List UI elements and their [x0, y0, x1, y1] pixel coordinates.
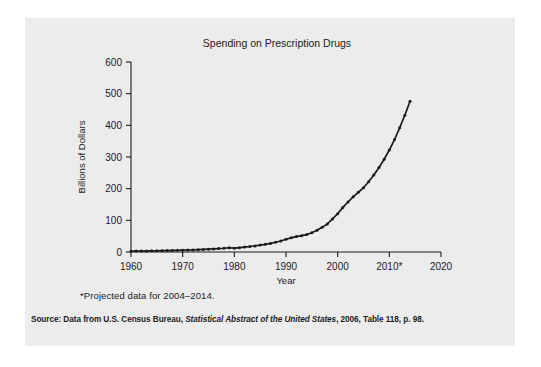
data-point-marker — [223, 247, 226, 250]
chart-content-panel: Spending on Prescription Drugs 010020030… — [25, 18, 515, 346]
y-tick-label: 300 — [105, 152, 122, 163]
data-point-marker — [212, 247, 215, 250]
data-point-marker — [409, 100, 412, 103]
data-point-marker — [305, 233, 308, 236]
data-point-marker — [341, 206, 344, 209]
data-point-marker — [362, 186, 365, 189]
x-tick-label: 2020 — [430, 261, 453, 272]
data-point-marker — [166, 249, 169, 252]
chart-title: Spending on Prescription Drugs — [203, 37, 351, 49]
data-point-marker — [269, 242, 272, 245]
y-tick-label: 100 — [105, 215, 122, 226]
x-axis-title: Year — [276, 275, 295, 286]
x-axis-ticks: 196019701980199020002010*2020 — [120, 252, 453, 272]
y-tick-label: 200 — [105, 183, 122, 194]
data-point-marker — [331, 217, 334, 220]
data-point-marker — [150, 249, 153, 252]
prescription-drug-spending-chart: Spending on Prescription Drugs 010020030… — [25, 18, 515, 288]
figure-root: Spending on Prescription Drugs 010020030… — [0, 0, 541, 367]
data-point-marker — [171, 249, 174, 252]
data-point-marker — [398, 126, 401, 129]
x-axis: 196019701980199020002010*2020 Year — [120, 252, 453, 286]
data-point-marker — [295, 235, 298, 238]
data-point-marker — [145, 249, 148, 252]
source-note: Source: Data from U.S. Census Bureau, St… — [31, 315, 424, 324]
data-point-marker — [259, 244, 262, 247]
data-point-marker — [357, 191, 360, 194]
source-suffix: , 2006, Table 118, p. 98. — [336, 315, 424, 324]
data-point-marker — [352, 195, 355, 198]
data-point-marker — [290, 236, 293, 239]
data-point-marker — [161, 249, 164, 252]
y-tick-label: 400 — [105, 120, 122, 131]
data-point-marker — [310, 231, 313, 234]
x-tick-label: 2010* — [376, 261, 402, 272]
data-point-marker — [192, 248, 195, 251]
data-point-marker — [388, 149, 391, 152]
data-point-marker — [316, 229, 319, 232]
data-point-marker — [186, 249, 189, 252]
y-tick-label: 500 — [105, 88, 122, 99]
y-axis-title: Billions of Dollars — [76, 120, 87, 193]
x-tick-label: 1960 — [120, 261, 143, 272]
data-point-marker — [202, 248, 205, 251]
data-point-marker — [393, 138, 396, 141]
data-point-marker — [383, 158, 386, 161]
x-tick-label: 1980 — [223, 261, 246, 272]
data-point-marker — [264, 243, 267, 246]
data-point-marker — [372, 174, 375, 177]
data-point-marker — [285, 238, 288, 241]
data-point-marker — [274, 241, 277, 244]
data-point-marker — [254, 244, 257, 247]
data-point-marker — [248, 245, 251, 248]
data-point-marker — [155, 249, 158, 252]
y-axis: 0100200300400500600 Billions of Dollars — [76, 57, 131, 258]
data-point-marker — [378, 166, 381, 169]
data-point-marker — [207, 248, 210, 251]
data-point-marker — [140, 250, 143, 253]
data-point-marker — [217, 247, 220, 250]
x-tick-label: 2000 — [327, 261, 350, 272]
data-point-marker — [197, 248, 200, 251]
data-point-marker — [181, 249, 184, 252]
data-point-marker — [130, 250, 133, 253]
data-point-marker — [403, 114, 406, 117]
data-point-marker — [321, 226, 324, 229]
data-point-marker — [135, 250, 138, 253]
projected-data-footnote: *Projected data for 2004–2014. — [80, 290, 215, 301]
y-tick-label: 600 — [105, 57, 122, 68]
data-point-marker — [300, 234, 303, 237]
data-point-marker — [279, 240, 282, 243]
data-point-marker — [336, 212, 339, 215]
data-point-marker — [347, 201, 350, 204]
y-tick-label: 0 — [116, 247, 122, 258]
chart-plot-area: Spending on Prescription Drugs 010020030… — [25, 18, 515, 288]
x-tick-label: 1990 — [275, 261, 298, 272]
y-axis-ticks: 0100200300400500600 — [105, 57, 131, 258]
data-point-marker — [238, 246, 241, 249]
x-tick-label: 1970 — [172, 261, 195, 272]
data-point-marker — [367, 180, 370, 183]
source-publication-title: Statistical Abstract of the United State… — [185, 315, 336, 324]
data-point-marker — [228, 246, 231, 249]
source-prefix: Source: Data from U.S. Census Bureau, — [31, 315, 185, 324]
spending-series-markers — [130, 100, 412, 253]
data-point-marker — [176, 249, 179, 252]
data-point-marker — [326, 222, 329, 225]
data-point-marker — [233, 247, 236, 250]
spending-series-line — [131, 101, 410, 251]
data-point-marker — [243, 246, 246, 249]
